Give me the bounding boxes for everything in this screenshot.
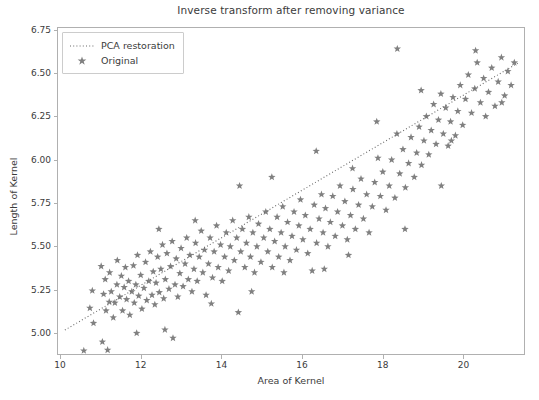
scatter-points-layer	[80, 45, 518, 354]
regression-line-layer	[65, 63, 518, 330]
scatter-point	[176, 269, 183, 276]
scatter-point	[494, 78, 501, 85]
scatter-point	[255, 220, 262, 227]
scatter-point	[432, 140, 439, 147]
scatter-point	[192, 239, 199, 246]
scatter-point	[102, 276, 109, 283]
scatter-point	[454, 107, 461, 114]
scatter-point	[185, 276, 192, 283]
legend-label-original: Original	[95, 55, 138, 66]
scatter-point	[142, 258, 149, 265]
scatter-point	[173, 255, 180, 262]
scatter-point	[310, 201, 317, 208]
scatter-point	[179, 282, 186, 289]
scatter-point	[148, 291, 155, 298]
scatter-point	[299, 236, 306, 243]
scatter-point	[308, 267, 315, 274]
scatter-point	[114, 256, 121, 263]
scatter-point	[217, 241, 224, 248]
scatter-point	[277, 229, 284, 236]
scatter-point	[152, 279, 159, 286]
scatter-point	[418, 161, 425, 168]
scatter-point	[137, 271, 144, 278]
scatter-point	[435, 116, 442, 123]
scatter-point	[106, 298, 113, 305]
scatter-point	[132, 281, 139, 288]
scatter-point	[160, 295, 167, 302]
y-axis-label: Length of Kernel	[8, 137, 19, 257]
scatter-point	[90, 319, 97, 326]
y-tick-label: 5.00	[10, 328, 51, 338]
scatter-point	[388, 156, 395, 163]
scatter-point	[447, 118, 454, 125]
scatter-point	[399, 145, 406, 152]
scatter-point	[457, 81, 464, 88]
scatter-point	[248, 288, 255, 295]
scatter-point	[386, 182, 393, 189]
scatter-point	[345, 251, 352, 258]
scatter-point	[110, 314, 117, 321]
scatter-point	[369, 203, 376, 210]
scatter-point	[181, 260, 188, 267]
scatter-point	[473, 59, 480, 66]
scatter-point	[373, 118, 380, 125]
scatter-point	[459, 121, 466, 128]
scatter-point	[452, 132, 459, 139]
y-tick-mark	[54, 333, 58, 334]
scatter-point	[154, 253, 161, 260]
scatter-point	[119, 307, 126, 314]
y-tick-label: 6.50	[10, 68, 51, 78]
scatter-point	[190, 265, 197, 272]
scatter-point	[297, 196, 304, 203]
scatter-point	[355, 201, 362, 208]
scatter-point	[237, 248, 244, 255]
scatter-point	[266, 225, 273, 232]
scatter-point	[352, 225, 359, 232]
x-tick-label: 18	[377, 360, 388, 370]
y-tick-mark	[54, 246, 58, 247]
scatter-point	[213, 222, 220, 229]
scatter-point	[145, 277, 152, 284]
scatter-point	[401, 225, 408, 232]
scatter-point	[488, 64, 495, 71]
scatter-point	[315, 215, 322, 222]
scatter-point	[260, 234, 267, 241]
scatter-point	[313, 147, 320, 154]
scatter-point	[349, 185, 356, 192]
scatter-point	[193, 277, 200, 284]
scatter-point	[413, 149, 420, 156]
scatter-point	[306, 225, 313, 232]
x-tick-mark	[383, 355, 384, 359]
scatter-point	[264, 248, 271, 255]
scatter-point	[327, 218, 334, 225]
scatter-point	[405, 159, 412, 166]
scatter-point	[188, 288, 195, 295]
regression-line	[65, 63, 518, 330]
scatter-point	[341, 198, 348, 205]
scatter-point	[199, 269, 206, 276]
scatter-point	[219, 277, 226, 284]
scatter-point	[210, 248, 217, 255]
scatter-point	[273, 213, 280, 220]
scatter-point	[236, 182, 243, 189]
x-tick-label: 20	[458, 360, 469, 370]
scatter-point	[100, 290, 107, 297]
scatter-point	[462, 95, 469, 102]
scatter-point	[135, 292, 142, 299]
y-tick-mark	[54, 73, 58, 74]
scatter-point	[444, 142, 451, 149]
scatter-point	[425, 151, 432, 158]
scatter-point	[430, 100, 437, 107]
scatter-point	[360, 215, 367, 222]
scatter-point	[99, 338, 106, 345]
scatter-point	[393, 130, 400, 137]
y-tick-mark	[54, 116, 58, 117]
scatter-point	[155, 225, 162, 232]
scatter-point	[229, 217, 236, 224]
scatter-point	[118, 272, 125, 279]
scatter-point	[235, 308, 242, 315]
scatter-point	[262, 208, 269, 215]
scatter-point	[279, 203, 286, 210]
legend-item-original: Original	[69, 53, 175, 68]
scatter-point	[253, 243, 260, 250]
